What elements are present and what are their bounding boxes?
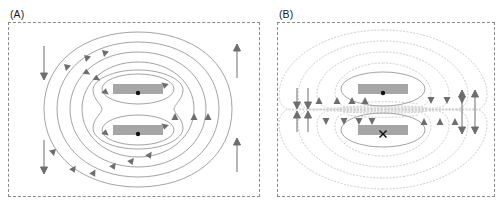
panel-b-field-lines <box>0 0 499 205</box>
field-direction-arrowhead <box>305 111 312 118</box>
field-direction-arrowhead <box>294 111 301 118</box>
field-direction-arrowhead <box>472 127 479 134</box>
field-direction-arrowhead <box>472 90 479 97</box>
magnet-b-bottom <box>358 125 408 135</box>
current-out-of-page-icon <box>358 88 408 98</box>
field-direction-arrowhead <box>305 102 312 109</box>
flow-arrowhead <box>452 118 459 125</box>
flow-arrowhead <box>444 97 451 104</box>
field-direction-arrowhead <box>459 90 466 97</box>
flow-arrowhead <box>428 97 435 104</box>
flow-arrowhead <box>349 97 356 104</box>
flow-arrowhead <box>334 97 341 104</box>
flow-arrowhead <box>421 118 428 125</box>
flow-arrowhead <box>316 97 323 104</box>
flow-arrowhead <box>369 118 376 125</box>
magnetic-field-figure: (A) <box>0 0 499 205</box>
flow-arrowhead <box>437 118 444 125</box>
contour-line <box>298 41 468 109</box>
panel-b-contour-group <box>279 30 487 189</box>
contour-line <box>298 110 468 178</box>
magnet-b-top <box>358 84 408 94</box>
flow-arrowhead <box>356 118 363 125</box>
contour-line <box>279 30 487 110</box>
flow-arrowhead <box>323 118 330 125</box>
field-direction-arrowhead <box>459 127 466 134</box>
field-direction-arrowhead <box>294 102 301 109</box>
flow-arrowhead <box>362 97 369 104</box>
current-into-page-icon <box>358 129 408 139</box>
